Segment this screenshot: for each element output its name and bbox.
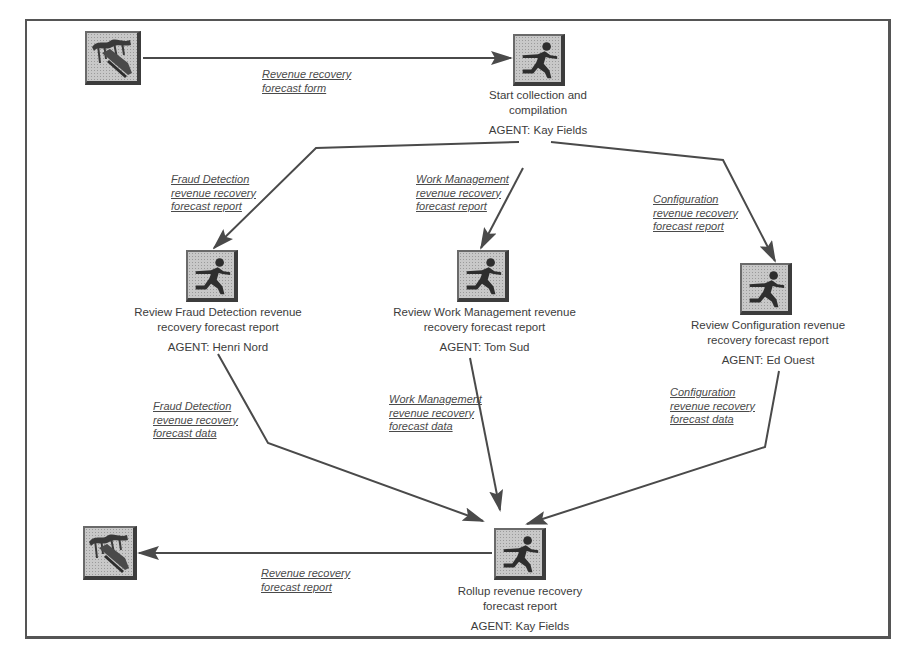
edge-label-line: forecast report <box>261 581 350 595</box>
edge-fraud-data-line <box>218 354 483 521</box>
edge-work-data-line <box>470 358 500 510</box>
edge-label-fraud-report: Fraud Detection revenue recovery forecas… <box>171 173 256 214</box>
edge-label-line: Fraud Detection <box>153 400 238 414</box>
runner-icon <box>742 265 788 311</box>
edge-label-fraud-data: Fraud Detection revenue recovery forecas… <box>153 400 238 441</box>
edge-label-line: revenue recovery <box>389 407 482 421</box>
edge-label-form: Revenue recovery forecast form <box>262 68 351 95</box>
runner-icon <box>188 252 234 298</box>
edge-label-line: revenue recovery <box>416 187 509 201</box>
edge-label-line: Revenue recovery <box>261 567 350 581</box>
edge-label-line: revenue recovery <box>653 207 738 221</box>
review-work-management-node[interactable] <box>457 250 509 302</box>
edge-label-line: revenue recovery <box>171 187 256 201</box>
node-title: Review Configuration revenue recovery fo… <box>691 319 845 346</box>
edge-label-config-data: Configuration revenue recovery forecast … <box>670 386 755 427</box>
rollup-node[interactable] <box>494 528 546 580</box>
document-stack-icon <box>85 528 133 576</box>
edge-label-line: forecast report <box>171 200 256 214</box>
edge-label-line: revenue recovery <box>670 400 755 414</box>
rollup-label: Rollup revenue recovery forecast report … <box>455 584 585 634</box>
edge-label-line: Work Management <box>389 393 482 407</box>
review-configuration-node[interactable] <box>740 263 792 315</box>
edge-label-line: Configuration <box>670 386 755 400</box>
node-agent: AGENT: Tom Sud <box>392 340 577 355</box>
edge-label-line: revenue recovery <box>153 414 238 428</box>
runner-icon <box>515 36 561 82</box>
edge-label-line: forecast form <box>262 82 351 96</box>
node-agent: AGENT: Ed Ouest <box>686 353 850 368</box>
runner-icon <box>496 530 542 576</box>
edge-label-line: forecast data <box>670 413 755 427</box>
edge-label-line: forecast data <box>389 420 482 434</box>
edge-label-line: Fraud Detection <box>171 173 256 187</box>
start-collection-label: Start collection and compilation AGENT: … <box>468 88 608 138</box>
document-stack-icon <box>87 33 137 81</box>
source-document-node[interactable] <box>85 31 141 85</box>
start-collection-node[interactable] <box>513 34 565 86</box>
review-fraud-detection-label: Review Fraud Detection revenue recovery … <box>118 305 318 355</box>
node-agent: AGENT: Henri Nord <box>118 340 318 355</box>
node-title: Start collection and compilation <box>489 89 587 116</box>
edge-label-final-report: Revenue recovery forecast report <box>261 567 350 594</box>
node-agent: AGENT: Kay Fields <box>455 619 585 634</box>
node-agent: AGENT: Kay Fields <box>468 123 608 138</box>
review-work-management-label: Review Work Management revenue recovery … <box>392 305 577 355</box>
node-title: Review Fraud Detection revenue recovery … <box>134 306 301 333</box>
edge-label-work-report: Work Management revenue recovery forecas… <box>416 173 509 214</box>
edge-label-line: forecast report <box>416 200 509 214</box>
runner-icon <box>459 252 505 298</box>
review-configuration-label: Review Configuration revenue recovery fo… <box>686 318 850 368</box>
edge-label-line: Work Management <box>416 173 509 187</box>
edge-label-line: forecast report <box>653 220 738 234</box>
output-document-node[interactable] <box>83 526 137 580</box>
edge-label-line: Revenue recovery <box>262 68 351 82</box>
edge-label-line: forecast data <box>153 427 238 441</box>
edge-label-work-data: Work Management revenue recovery forecas… <box>389 393 482 434</box>
edge-label-line: Configuration <box>653 193 738 207</box>
edge-label-config-report: Configuration revenue recovery forecast … <box>653 193 738 234</box>
node-title: Review Work Management revenue recovery … <box>393 306 576 333</box>
review-fraud-detection-node[interactable] <box>186 250 238 302</box>
node-title: Rollup revenue recovery forecast report <box>458 585 583 612</box>
